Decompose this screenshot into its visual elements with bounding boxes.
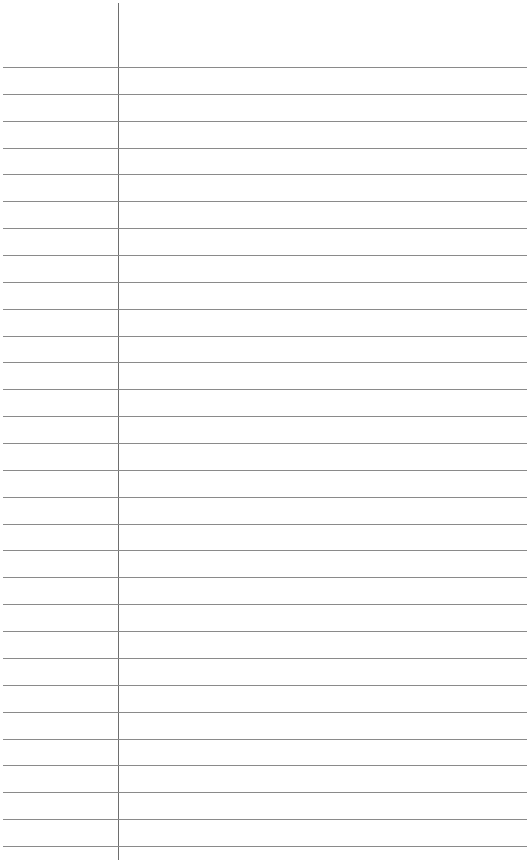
ruled-line	[3, 201, 527, 202]
ruled-line	[3, 336, 527, 337]
ruled-line	[3, 121, 527, 122]
ruled-line	[3, 658, 527, 659]
ruled-line	[3, 765, 527, 766]
ruled-line	[3, 362, 527, 363]
ruled-line	[3, 228, 527, 229]
ruled-line	[3, 255, 527, 256]
ruled-line	[3, 577, 527, 578]
ruled-line	[3, 819, 527, 820]
ruled-line	[3, 846, 527, 847]
margin-line	[118, 3, 119, 860]
ruled-line	[3, 712, 527, 713]
ruled-line	[3, 739, 527, 740]
ruled-line	[3, 497, 527, 498]
ruled-line	[3, 631, 527, 632]
ruled-line	[3, 282, 527, 283]
ruled-line	[3, 604, 527, 605]
ruled-line	[3, 470, 527, 471]
ruled-line	[3, 389, 527, 390]
ruled-line	[3, 94, 527, 95]
lined-paper-page	[0, 0, 529, 864]
ruled-line	[3, 792, 527, 793]
ruled-line	[3, 685, 527, 686]
ruled-line	[3, 550, 527, 551]
ruled-line	[3, 148, 527, 149]
ruled-line	[3, 524, 527, 525]
ruled-line	[3, 67, 527, 68]
ruled-line	[3, 309, 527, 310]
ruled-line	[3, 174, 527, 175]
ruled-line	[3, 416, 527, 417]
ruled-line	[3, 443, 527, 444]
